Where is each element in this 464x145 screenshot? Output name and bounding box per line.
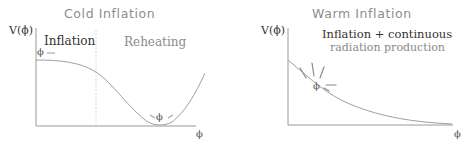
cold-inflation-plot: [0, 0, 232, 145]
warm-annotation-line1: Inflation + continuous: [322, 27, 452, 41]
field-start-label: ϕ: [37, 46, 44, 57]
warm-field-label: ϕ: [313, 80, 320, 91]
field-minimum-label: ϕ: [156, 111, 163, 122]
cold-x-axis-label: ϕ: [196, 128, 203, 139]
warm-inflation-panel: Warm Inflation V(ϕ) Inflation + continuo…: [232, 0, 464, 145]
warm-y-axis-label: V(ϕ): [261, 24, 285, 37]
warm-x-axis-label: ϕ: [454, 128, 461, 139]
cold-y-axis-label: V(ϕ): [9, 24, 33, 37]
warm-inflation-plot: [232, 0, 464, 145]
cold-inflation-panel: Cold Inflation V(ϕ) Inflation Reheating …: [0, 0, 232, 145]
reheating-region-label: Reheating: [124, 35, 186, 49]
warm-annotation-line2: radiation production: [330, 41, 445, 54]
inflation-region-label: Inflation: [44, 34, 95, 48]
